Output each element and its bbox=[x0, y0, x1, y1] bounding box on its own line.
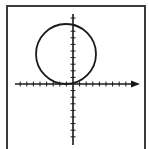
circle-shape bbox=[36, 24, 96, 84]
x-axis-arrow-icon bbox=[131, 81, 140, 88]
coordinate-plane-figure bbox=[0, 0, 149, 149]
plot-canvas bbox=[0, 0, 149, 149]
